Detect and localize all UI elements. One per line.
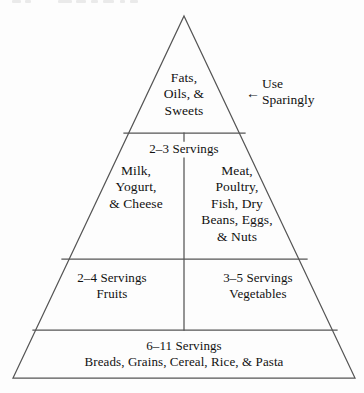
tier-fats-oils-sweets-label: Fats, Oils, & Sweets	[134, 70, 234, 119]
tier-meat-label: Meat, Poultry, Fish, Dry Beans, Eggs, & …	[188, 163, 286, 245]
food-pyramid-diagram: Fats, Oils, & Sweets ← Use Sparingly 2–3…	[0, 0, 364, 393]
tier-vegetables-label: 3–5 Servings Vegetables	[190, 270, 326, 302]
use-sparingly-annotation: Use Sparingly	[262, 76, 358, 108]
tier-grains-label: 6–11 Servings Breads, Grains, Cereal, Ri…	[34, 338, 334, 370]
pyramid-outline	[0, 0, 364, 393]
tier-dairy-meat-servings-label: 2–3 Servings	[124, 141, 244, 157]
tier-dairy-label: Milk, Yogurt, & Cheese	[92, 163, 180, 212]
left-arrow-icon: ←	[243, 86, 263, 102]
tier-fruits-label: 2–4 Servings Fruits	[44, 270, 180, 302]
